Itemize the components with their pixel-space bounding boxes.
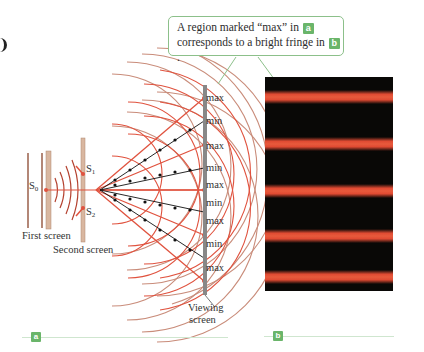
bright-fringe-5	[265, 270, 393, 284]
marker-min-3: min	[206, 197, 222, 208]
bright-fringe-2	[265, 137, 393, 151]
bright-fringe-4	[265, 229, 393, 243]
marker-min-1: min	[206, 115, 222, 126]
label-s2: S2	[86, 206, 95, 219]
slit-s2-dot	[81, 206, 85, 210]
marker-max-5: max	[206, 262, 224, 273]
marker-max-3: max	[206, 179, 224, 190]
interference-wavefronts	[112, 44, 282, 342]
callout-line-1: A region marked “max” in a	[177, 20, 343, 35]
label-second-screen: Second screen	[53, 244, 113, 255]
marker-min-2: min	[206, 162, 222, 173]
bright-fringe-3	[265, 184, 393, 198]
marker-max-1: max	[206, 92, 224, 103]
panel-b-rule	[264, 336, 394, 337]
label-s1: S1	[86, 163, 95, 176]
callout-line-2: corresponds to a bright fringe in b.	[177, 35, 343, 65]
source-s0-dot	[44, 188, 48, 192]
interference-fringe-photo	[265, 77, 393, 291]
label-viewing-screen-2: screen	[189, 314, 216, 325]
label-viewing-screen-1: Viewing	[188, 302, 224, 313]
label-first-screen: First screen	[22, 230, 71, 241]
panel-a-tag: a	[31, 332, 41, 342]
bright-fringe-1	[265, 90, 393, 104]
marker-max-2: max	[206, 140, 224, 151]
panel-a-rule	[22, 337, 228, 338]
marker-min-4: min	[206, 238, 222, 249]
label-s0: S0	[29, 180, 38, 193]
slit-s1-dot	[81, 172, 85, 176]
callout-tag-a: a	[303, 23, 314, 34]
marker-max-4: max	[206, 215, 224, 226]
callout-box: A region marked “max” in a corresponds t…	[168, 16, 344, 56]
callout-tag-b: b	[329, 38, 340, 49]
panel-b-tag: b	[273, 331, 283, 341]
